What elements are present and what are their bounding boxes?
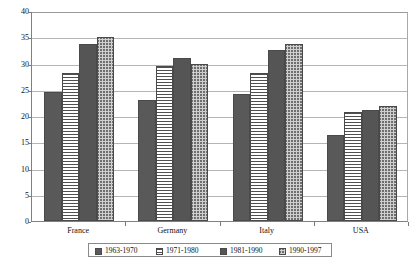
bar-france-1981-1990: [79, 44, 97, 221]
x-axis-label-usa: USA: [314, 226, 408, 235]
y-axis-tick-mark: [28, 65, 31, 66]
chart-legend: 1963-19701971-19801981-19901990-1997: [88, 243, 332, 257]
legend-entry-1971-1980: 1971-1980: [156, 246, 199, 256]
y-axis-tick-label: 10: [3, 166, 29, 174]
bar-germany-1963-1970: [138, 100, 156, 221]
y-axis-tick-label: 20: [3, 113, 29, 121]
bar-italy-1971-1980: [250, 73, 268, 221]
x-axis-label-france: France: [31, 226, 125, 235]
y-axis-tick-label: 40: [3, 8, 29, 16]
y-axis-tick-mark: [28, 196, 31, 197]
legend-swatch-icon: [279, 248, 286, 255]
y-axis-tick-mark: [28, 117, 31, 118]
bar-usa-1971-1980: [344, 112, 362, 221]
bar-germany-1981-1990: [173, 58, 191, 221]
y-axis-tick-label: 35: [3, 34, 29, 42]
bar-france-1971-1980: [62, 73, 80, 221]
bar-germany-1990-1997: [191, 64, 209, 221]
legend-label: 1963-1970: [105, 247, 138, 255]
legend-swatch-icon: [95, 248, 102, 255]
gridline: [32, 38, 407, 39]
x-axis-label-germany: Germany: [125, 226, 219, 235]
y-axis-tick-mark: [28, 170, 31, 171]
bar-usa-1990-1997: [379, 106, 397, 222]
y-axis-tick-label: 30: [3, 61, 29, 69]
x-axis-tick-mark: [408, 222, 409, 226]
y-axis-tick-label: 5: [3, 192, 29, 200]
bar-usa-1981-1990: [362, 110, 380, 221]
legend-entry-1981-1990: 1981-1990: [220, 246, 263, 256]
y-axis-tick-label: 25: [3, 87, 29, 95]
y-axis-tick-mark: [28, 222, 31, 223]
y-axis-tick-mark: [28, 38, 31, 39]
y-axis-tick-mark: [28, 143, 31, 144]
bar-italy-1990-1997: [285, 44, 303, 221]
bar-chart: 0510152025303540 FranceGermanyItalyUSA 1…: [0, 0, 420, 265]
bar-italy-1981-1990: [268, 50, 286, 221]
legend-swatch-icon: [220, 248, 227, 255]
legend-entry-1990-1997: 1990-1997: [279, 246, 322, 256]
plot-area: [31, 12, 408, 222]
x-axis-label-italy: Italy: [220, 226, 314, 235]
bar-germany-1971-1980: [156, 66, 174, 221]
legend-swatch-icon: [156, 248, 163, 255]
bar-france-1963-1970: [44, 92, 62, 221]
bar-italy-1963-1970: [233, 94, 251, 221]
legend-label: 1990-1997: [289, 247, 322, 255]
legend-label: 1981-1990: [230, 247, 263, 255]
legend-entry-1963-1970: 1963-1970: [95, 246, 138, 256]
legend-label: 1971-1980: [166, 247, 199, 255]
y-axis-tick-label: 0: [3, 218, 29, 226]
gridline: [32, 12, 407, 13]
y-axis-tick-mark: [28, 91, 31, 92]
y-axis: 0510152025303540: [0, 0, 29, 265]
bar-france-1990-1997: [97, 37, 115, 221]
y-axis-tick-label: 15: [3, 139, 29, 147]
bar-usa-1963-1970: [327, 135, 345, 221]
y-axis-tick-mark: [28, 12, 31, 13]
